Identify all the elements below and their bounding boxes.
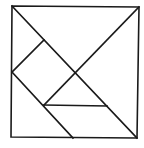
tangram-diagram xyxy=(0,0,144,148)
small-square-top-edge xyxy=(12,40,44,72)
tangram-svg xyxy=(0,0,144,148)
horizontal-divider xyxy=(44,105,107,106)
main-diagonal xyxy=(12,6,137,138)
